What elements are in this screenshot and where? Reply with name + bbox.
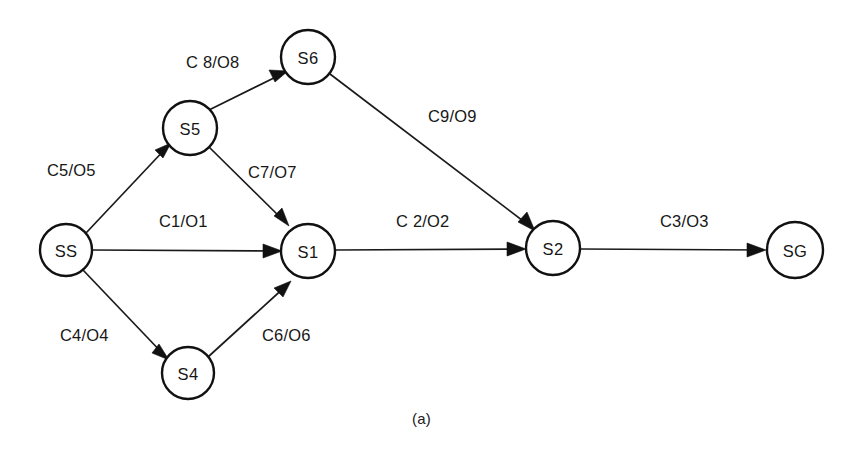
arrow-head-s1-s2 bbox=[507, 242, 526, 256]
edge-line-s5-s1 bbox=[209, 147, 285, 222]
arrow-head-s5-s1 bbox=[274, 208, 289, 226]
edge-label-c6-o6: C6/O6 bbox=[262, 327, 311, 344]
node-s6[interactable]: S6 bbox=[281, 30, 335, 84]
edge-line-ss-s1 bbox=[92, 250, 278, 251]
edge-line-ss-s5 bbox=[86, 146, 168, 233]
edge-label-c9-o9: C9/O9 bbox=[428, 108, 477, 125]
edge-s5-to-s1 bbox=[209, 147, 289, 226]
arrow-head-s2-sg bbox=[747, 243, 766, 257]
node-ss[interactable]: SS bbox=[40, 224, 92, 276]
edge-ss-to-s4 bbox=[83, 270, 169, 360]
arrow-head-ss-s1 bbox=[263, 244, 282, 258]
node-s5[interactable]: S5 bbox=[163, 101, 217, 155]
node-label-s6: S6 bbox=[298, 49, 319, 67]
node-label-s5: S5 bbox=[180, 120, 201, 138]
edge-label-c5-o5: C5/O5 bbox=[47, 162, 96, 179]
figure-root: SS S5 S6 S1 S4 S2 bbox=[0, 0, 853, 457]
node-label-s2: S2 bbox=[543, 240, 564, 258]
edge-line-s4-s1 bbox=[208, 285, 287, 357]
edge-s2-to-sg bbox=[580, 243, 766, 257]
edge-line-s5-s6 bbox=[209, 73, 284, 110]
edge-line-s2-sg bbox=[580, 249, 762, 250]
node-s4[interactable]: S4 bbox=[162, 347, 214, 399]
node-label-sg: SG bbox=[783, 242, 807, 260]
edge-line-s1-s2 bbox=[335, 249, 522, 250]
node-s2[interactable]: S2 bbox=[526, 221, 580, 275]
edge-ss-to-s1 bbox=[92, 244, 282, 258]
arrow-head-s6-s2 bbox=[518, 212, 535, 231]
edge-label-c1-o1: C1/O1 bbox=[159, 213, 208, 230]
figure-caption: (a) bbox=[412, 410, 431, 427]
edge-s5-to-s6 bbox=[209, 70, 288, 110]
edge-label-c3-o3: C3/O3 bbox=[660, 213, 709, 230]
node-label-ss: SS bbox=[55, 242, 78, 260]
node-sg[interactable]: SG bbox=[767, 222, 823, 278]
edge-s6-to-s2 bbox=[330, 74, 535, 231]
edge-s1-to-s2 bbox=[335, 242, 526, 256]
edge-label-c2-o2: C 2/O2 bbox=[396, 213, 449, 230]
edge-s4-to-s1 bbox=[208, 281, 291, 357]
node-label-s4: S4 bbox=[178, 365, 199, 383]
edge-label-c4-o4: C4/O4 bbox=[60, 327, 109, 344]
edge-line-s6-s2 bbox=[330, 74, 531, 227]
edge-label-c7-o7: C7/O7 bbox=[248, 164, 297, 181]
node-s1[interactable]: S1 bbox=[281, 224, 335, 278]
edge-label-c8-o8: C 8/O8 bbox=[186, 54, 239, 71]
node-label-s1: S1 bbox=[298, 243, 319, 261]
